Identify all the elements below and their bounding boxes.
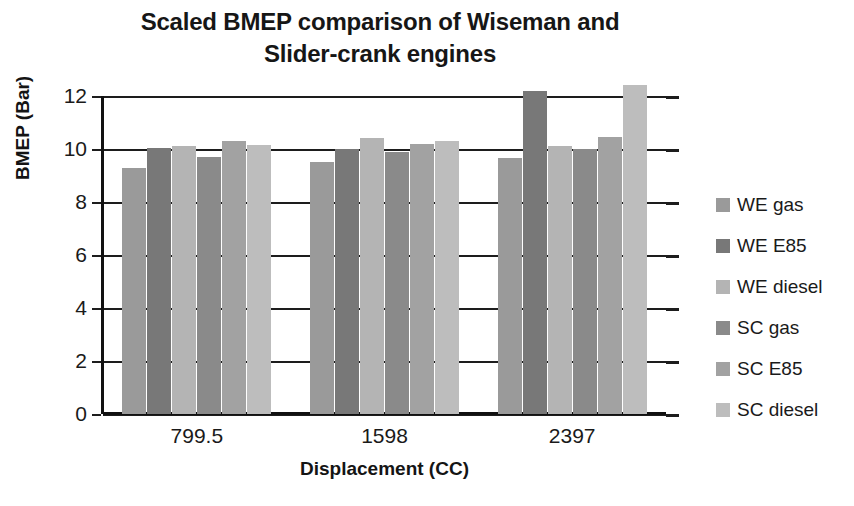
x-axis-tick-labels: 799.515982397 [103,424,666,448]
chart-legend: WE gasWE E85WE dieselSC gasSC E85SC dies… [716,184,850,430]
bar-slot [498,96,522,414]
bar[interactable] [247,145,271,414]
y-axis-tick [92,361,101,363]
bar-slot [222,96,246,414]
y-axis-tick-right [666,202,679,205]
y-axis-tick-right [666,361,679,364]
bar[interactable] [222,141,246,414]
legend-label: SC gas [737,317,799,339]
y-axis-tick-label: 12 [64,84,87,108]
bar-chart: Scaled BMEP comparison of Wiseman and Sl… [0,0,854,506]
chart-title-line-2: Slider-crank engines [60,38,700,70]
x-axis-tick-label: 1598 [291,424,479,448]
bar-slot [197,96,221,414]
legend-item[interactable]: WE gas [716,184,850,225]
bar[interactable] [122,168,146,414]
y-axis-tick-right [666,255,679,258]
y-axis-tick [92,308,101,310]
bar-slot [435,96,459,414]
bar-group [291,96,479,414]
bar-slot [523,96,547,414]
bar-slot [623,96,647,414]
legend-label: SC diesel [737,399,818,421]
y-axis-tick-right [666,96,679,99]
x-axis-tick-label: 2397 [478,424,666,448]
legend-swatch-icon [716,403,730,417]
legend-item[interactable]: SC gas [716,307,850,348]
bar[interactable] [147,148,171,414]
bar[interactable] [498,158,522,414]
y-axis-tick [92,255,101,257]
bar-slot [172,96,196,414]
y-axis-tick-label: 4 [75,296,87,320]
legend-swatch-icon [716,198,730,212]
y-axis-tick-label: 10 [64,137,87,161]
y-axis-tick-label: 2 [75,349,87,373]
bar-slot [360,96,384,414]
bar[interactable] [435,141,459,414]
legend-label: SC E85 [737,358,802,380]
y-axis-tick-label: 0 [75,402,87,426]
bar-slot [548,96,572,414]
chart-title-line-1: Scaled BMEP comparison of Wiseman and [60,6,700,38]
legend-swatch-icon [716,362,730,376]
legend-swatch-icon [716,239,730,253]
bar-slot [410,96,434,414]
bar[interactable] [410,144,434,414]
bar[interactable] [335,149,359,414]
bar-slot [310,96,334,414]
bar[interactable] [310,162,334,414]
plot-area: 024681012 [103,96,666,414]
bar[interactable] [623,85,647,414]
bar-slot [147,96,171,414]
legend-item[interactable]: SC E85 [716,348,850,389]
bar-slot [573,96,597,414]
legend-item[interactable]: WE diesel [716,266,850,307]
bar-group [478,96,666,414]
y-axis-tick-label: 6 [75,243,87,267]
legend-item[interactable]: SC diesel [716,389,850,430]
y-axis-tick-right [666,149,679,152]
bar[interactable] [172,146,196,414]
x-axis-tick-label: 799.5 [103,424,291,448]
y-axis-tick [92,202,101,204]
bar-slot [598,96,622,414]
x-axis-title: Displacement (CC) [103,458,666,480]
legend-swatch-icon [716,321,730,335]
bar[interactable] [523,91,547,414]
bar[interactable] [197,157,221,414]
y-axis-title: BMEP (Bar) [12,76,34,180]
y-axis-tick-label: 8 [75,190,87,214]
bar[interactable] [573,149,597,414]
bar-group [103,96,291,414]
bar[interactable] [360,138,384,414]
bar-groups [103,96,666,414]
legend-label: WE E85 [737,235,807,257]
chart-title: Scaled BMEP comparison of Wiseman and Sl… [60,6,700,69]
legend-label: WE diesel [737,276,823,298]
y-axis-tick-right [666,308,679,311]
bar-slot [385,96,409,414]
legend-item[interactable]: WE E85 [716,225,850,266]
bar-slot [122,96,146,414]
bar-slot [247,96,271,414]
y-axis-tick-right [666,414,679,417]
legend-label: WE gas [737,194,804,216]
bar[interactable] [385,152,409,414]
bar-slot [335,96,359,414]
bar[interactable] [548,146,572,414]
bar[interactable] [598,137,622,414]
y-axis-tick [92,96,101,98]
y-axis-tick [92,149,101,151]
legend-swatch-icon [716,280,730,294]
y-axis-tick [92,414,101,416]
